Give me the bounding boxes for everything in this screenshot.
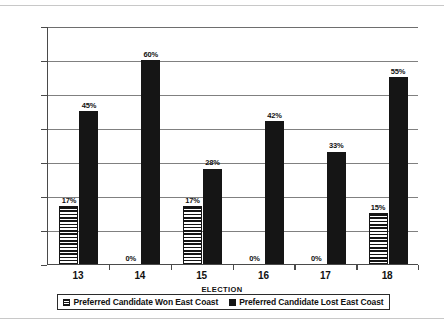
gridline xyxy=(48,61,418,62)
bar-won-15 xyxy=(183,206,202,264)
bar-value-label: 45% xyxy=(73,101,104,110)
bar-value-label: 33% xyxy=(321,141,352,150)
bar-value-label: 28% xyxy=(197,158,228,167)
x-axis-tick xyxy=(233,265,234,270)
legend-label-lost: Preferred Candidate Lost East Coast xyxy=(239,297,383,307)
bar-lost-15 xyxy=(203,169,222,264)
x-axis-title: ELECTION xyxy=(0,285,444,294)
bar-won-18 xyxy=(369,213,388,264)
bar-lost-18 xyxy=(389,77,408,264)
plot-top-border xyxy=(48,27,418,28)
legend-label-won: Preferred Candidate Won East Coast xyxy=(73,297,218,307)
page-scan-line-top xyxy=(0,5,444,6)
gridline xyxy=(48,129,418,130)
x-axis-tick xyxy=(171,265,172,270)
bar-value-label: 60% xyxy=(135,50,166,59)
bar-won-13 xyxy=(59,206,78,264)
x-axis-tick xyxy=(356,265,357,270)
x-axis-tick-label: 15 xyxy=(182,270,222,281)
hatched-square-icon xyxy=(63,299,70,306)
plot-area: 17%45%0%60%17%28%0%42%0%33%15%55% xyxy=(47,27,418,265)
gridline xyxy=(48,95,418,96)
x-axis-tick-label: 14 xyxy=(120,270,160,281)
bar-chart: 0%10%20%30%40%50%60%70% 17%45%0%60%17%28… xyxy=(0,0,444,324)
page-scan-line-bottom xyxy=(0,318,444,319)
gridline xyxy=(48,231,418,232)
filled-square-icon xyxy=(229,299,236,306)
bar-value-label: 55% xyxy=(383,67,414,76)
x-axis-tick-label: 16 xyxy=(243,270,283,281)
x-axis-tick xyxy=(418,265,419,270)
x-axis-tick xyxy=(294,265,295,270)
bar-lost-17 xyxy=(327,152,346,264)
x-axis-tick-label: 18 xyxy=(367,270,407,281)
chart-legend: Preferred Candidate Won East Coast Prefe… xyxy=(57,294,390,310)
bar-lost-14 xyxy=(141,60,160,264)
legend-item-won: Preferred Candidate Won East Coast xyxy=(63,297,218,307)
y-axis-tick xyxy=(41,265,47,266)
gridline xyxy=(48,197,418,198)
bar-value-label: 42% xyxy=(259,111,290,120)
bar-lost-13 xyxy=(79,111,98,264)
x-axis-tick xyxy=(109,265,110,270)
x-axis-tick-label: 17 xyxy=(305,270,345,281)
bar-lost-16 xyxy=(265,121,284,264)
x-axis-tick-label: 13 xyxy=(58,270,98,281)
gridline xyxy=(48,163,418,164)
legend-item-lost: Preferred Candidate Lost East Coast xyxy=(229,297,383,307)
